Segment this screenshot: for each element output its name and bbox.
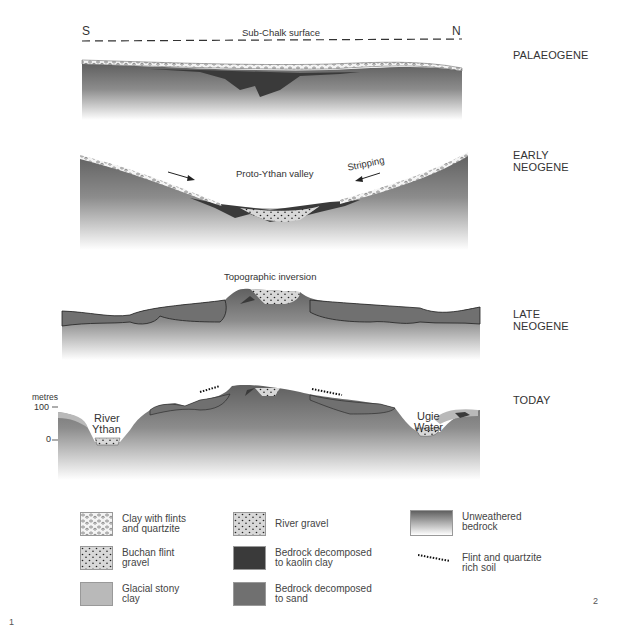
legend-item-clay-with-flints: Clay with flints and quartzite: [80, 512, 186, 536]
proto-ythan-label: Proto-Ythan valley: [236, 168, 314, 179]
ugie-water-label-2: Water: [414, 421, 443, 433]
legend-item-flint-soil: Flint and quartzite rich soil: [418, 553, 542, 573]
dotted-line-swatch: [418, 553, 452, 563]
glacial-clay-swatch: [80, 582, 113, 606]
era-label-today: TODAY: [513, 394, 550, 406]
early-neogene-section: [0, 130, 500, 250]
legend-item-sand: Bedrock decomposed to sand: [233, 582, 372, 606]
sand-swatch: [233, 582, 266, 606]
legend-item-river-gravel: River gravel: [233, 512, 328, 536]
kaolin-swatch: [233, 546, 266, 570]
legend-label: Glacial stony clay: [122, 584, 179, 604]
figure-number-right: 2: [593, 596, 598, 606]
legend-item-kaolin-clay: Bedrock decomposed to kaolin clay: [233, 546, 372, 570]
era-label-late-neogene: LATE NEOGENE: [513, 308, 569, 332]
era-label-palaeogene: PALAEOGENE: [513, 49, 588, 61]
river-gravel-swatch: [233, 512, 266, 536]
panel-late-neogene: Topographic inversion LATE NEOGENE: [0, 260, 500, 360]
bedrock-gradient-swatch: [410, 510, 453, 536]
legend-label: Clay with flints and quartzite: [122, 514, 186, 534]
era-label-early-neogene: EARLY NEOGENE: [513, 149, 569, 173]
legend-label: River gravel: [275, 519, 328, 529]
legend-label: Bedrock decomposed to sand: [275, 584, 372, 604]
panel-palaeogene: S N Sub-Chalk surface PALAEOGENE: [0, 0, 500, 120]
clay-flints-swatch: [80, 512, 113, 536]
legend-item-unweathered-bedrock: Unweathered bedrock: [410, 510, 521, 536]
legend-item-buchan-flint-gravel: Buchan flint gravel: [80, 546, 174, 570]
panel-today: metres 100 0 River Ythan Ugie Water TODA…: [0, 370, 500, 480]
figure-number-left: 1: [9, 617, 14, 627]
panel-early-neogene: Proto-Ythan valley Stripping EARLY NEOGE…: [0, 130, 500, 250]
legend-label: Bedrock decomposed to kaolin clay: [275, 548, 372, 568]
legend-label: Buchan flint gravel: [122, 548, 174, 568]
late-neogene-section: [0, 260, 500, 360]
legend-label: Flint and quartzite rich soil: [462, 553, 542, 573]
palaeogene-section: [0, 0, 500, 120]
river-ythan-label-2: Ythan: [92, 423, 121, 435]
legend-item-glacial-stony-clay: Glacial stony clay: [80, 582, 179, 606]
legend-label: Unweathered bedrock: [462, 512, 521, 532]
buchan-gravel-swatch: [80, 546, 113, 570]
